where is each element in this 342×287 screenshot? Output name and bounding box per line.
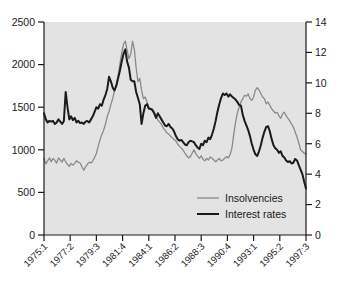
right-axis-tick-label: 0 — [315, 229, 321, 241]
insolvencies-interest-rates-line-chart: 05001000150020002500 02468101214 1975:11… — [0, 0, 342, 287]
chart-container: 05001000150020002500 02468101214 1975:11… — [0, 0, 342, 287]
right-axis-tick-label: 10 — [315, 77, 327, 89]
left-axis-tick-label: 500 — [17, 186, 35, 198]
right-axis-tick-label: 14 — [315, 16, 327, 28]
legend-label-insolvencies: Insolvencies — [225, 192, 283, 204]
right-axis-tick-label: 2 — [315, 198, 321, 210]
right-axis-tick-label: 8 — [315, 107, 321, 119]
left-axis-tick-label: 1000 — [12, 144, 36, 156]
left-axis-tick-label: 0 — [29, 229, 35, 241]
right-axis-tick-label: 12 — [315, 46, 327, 58]
left-axis-tick-label: 1500 — [12, 101, 36, 113]
right-axis-tick-label: 6 — [315, 138, 321, 150]
left-axis-tick-label: 2000 — [12, 58, 36, 70]
right-axis-tick-label: 4 — [315, 168, 321, 180]
legend-label-interest-rates: Interest rates — [225, 208, 286, 220]
left-axis-tick-label: 2500 — [12, 16, 36, 28]
